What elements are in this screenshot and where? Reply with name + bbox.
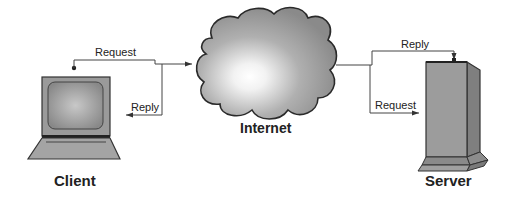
- diagram-canvas: [0, 0, 510, 197]
- server-request-label: Request: [375, 100, 416, 111]
- client-request-label: Request: [95, 47, 136, 58]
- client-label: Client: [54, 173, 96, 188]
- internet-label: Internet: [240, 121, 291, 135]
- server-tower-icon: [418, 62, 488, 171]
- server-reply-label: Reply: [401, 39, 429, 50]
- laptop-icon: [28, 77, 120, 159]
- cloud-icon: [197, 8, 337, 119]
- client-reply-label: Reply: [131, 102, 159, 113]
- server-label: Server: [425, 173, 472, 188]
